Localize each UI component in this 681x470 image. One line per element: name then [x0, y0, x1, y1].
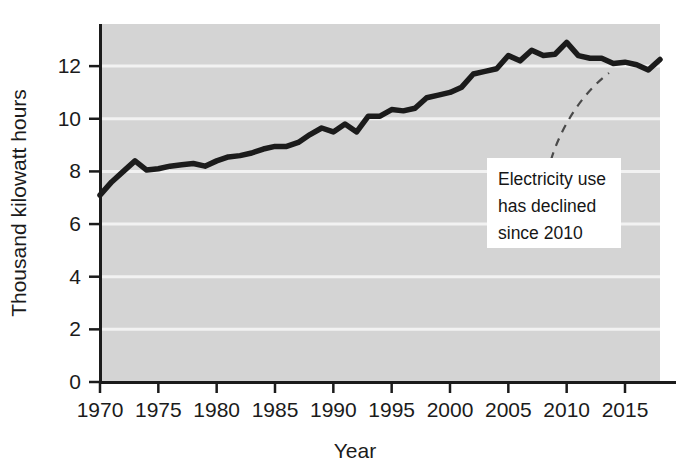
x-axis-tick-labels: 1970197519801985199019952000200520102015 — [77, 398, 649, 421]
annotation-line-1: Electricity use — [498, 169, 606, 189]
y-axis-tick-label: 2 — [69, 317, 81, 340]
electricity-use-line-chart: 024681012 197019751980198519901995200020… — [0, 0, 681, 470]
x-axis-tick-label: 2005 — [485, 398, 532, 421]
y-axis-tick-label: 4 — [69, 265, 81, 288]
y-axis-tick-label: 12 — [58, 54, 81, 77]
x-axis-tick-label: 1975 — [135, 398, 182, 421]
x-axis-tick-label: 1990 — [310, 398, 357, 421]
x-axis-title: Year — [334, 439, 376, 462]
chart-figure: 024681012 197019751980198519901995200020… — [0, 0, 681, 470]
y-axis-title: Thousand kilowatt hours — [7, 89, 30, 317]
y-axis-tick-label: 0 — [69, 370, 81, 393]
x-axis-tick-label: 2015 — [602, 398, 649, 421]
y-axis-tick-label: 6 — [69, 212, 81, 235]
y-axis-tick-label: 8 — [69, 159, 81, 182]
annotation-line-3: since 2010 — [498, 223, 583, 243]
x-axis-tick-label: 2000 — [427, 398, 474, 421]
x-axis-tick-label: 1980 — [193, 398, 240, 421]
x-axis-tick-label: 1985 — [252, 398, 299, 421]
x-axis-tick-label: 1995 — [368, 398, 415, 421]
y-axis-tick-label: 10 — [58, 107, 81, 130]
annotation-line-2: has declined — [498, 196, 596, 216]
x-axis-tick-label: 1970 — [77, 398, 124, 421]
y-axis-ticks — [89, 66, 100, 382]
y-axis-tick-labels: 024681012 — [58, 54, 82, 393]
x-axis-tick-label: 2010 — [543, 398, 590, 421]
